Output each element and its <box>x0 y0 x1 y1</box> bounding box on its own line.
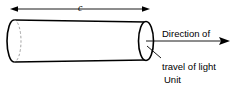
unit-cross-sectional-area-label: Unit cross-sectional area <box>164 52 227 98</box>
area-label-line-1: Unit <box>164 74 227 85</box>
left-end-cap-ellipse <box>7 20 21 62</box>
length-label: c <box>78 2 82 13</box>
cylinder-body <box>14 20 146 62</box>
light-cylinder-diagram: c Direction of travel of light Unit cros… <box>0 0 242 98</box>
direction-label-line-1: Direction of <box>162 28 216 39</box>
